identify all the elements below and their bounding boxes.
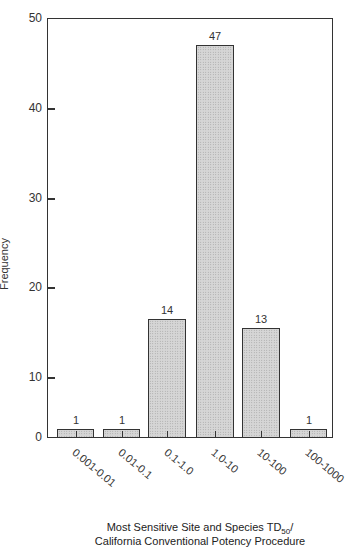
bar-value-label: 13 <box>241 313 281 325</box>
bar-value-label: 47 <box>195 30 235 42</box>
y-tick-20 <box>47 287 55 289</box>
bar-1.0-10 <box>196 45 234 438</box>
x-tick-label: 100-1000 <box>303 446 346 485</box>
y-axis-title: Frequency <box>0 238 10 290</box>
y-tick-30 <box>47 198 55 200</box>
x-axis-title: Most Sensitive Site and Species TD50/ <box>22 521 356 536</box>
x-axis-title-line2: California Conventional Potency Procedur… <box>22 535 356 547</box>
x-tick-label: 0.01-0.1 <box>116 446 155 481</box>
y-tick-label: 10 <box>12 370 42 384</box>
y-tick-10 <box>47 377 55 379</box>
x-tick-label: 0.1-1.0 <box>162 446 196 477</box>
bar-value-label: 1 <box>56 414 96 426</box>
y-tick-label: 20 <box>12 280 42 294</box>
y-tick-label: 0 <box>12 430 42 444</box>
y-tick-label: 40 <box>12 101 42 115</box>
y-tick-40 <box>47 108 55 110</box>
x-tick-label: 1.0-10 <box>209 446 241 475</box>
bar-100-1000 <box>290 429 327 438</box>
bar-10-100 <box>242 328 280 438</box>
bar-value-label: 1 <box>102 414 142 426</box>
bar-0.001-0.01 <box>57 429 94 438</box>
bar-value-label: 1 <box>289 414 329 426</box>
x-tick-label: 10-100 <box>255 446 289 477</box>
x-tick-label: 0.001-0.01 <box>70 446 118 489</box>
plot-frame <box>47 18 333 438</box>
y-tick-label: 50 <box>12 11 42 25</box>
y-tick-label: 30 <box>12 191 42 205</box>
bar-0.01-0.1 <box>103 429 140 438</box>
bar-value-label: 14 <box>147 304 187 316</box>
bar-0.1-1.0 <box>148 319 186 438</box>
